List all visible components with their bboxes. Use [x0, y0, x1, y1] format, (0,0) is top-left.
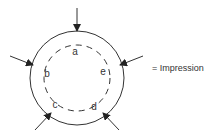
arrow-right-icon — [120, 56, 143, 65]
point-labels: aedcb — [44, 46, 106, 112]
arrow-left-icon — [10, 56, 33, 65]
point-label-d: d — [91, 101, 97, 112]
arrow-bottom-right-icon — [103, 113, 119, 130]
point-label-b: b — [44, 68, 50, 79]
point-label-c: c — [53, 99, 58, 110]
point-label-e: e — [100, 66, 106, 77]
arrow-bottom-left-icon — [35, 113, 51, 130]
point-label-a: a — [72, 46, 78, 57]
legend-impression: = Impression — [152, 63, 204, 73]
